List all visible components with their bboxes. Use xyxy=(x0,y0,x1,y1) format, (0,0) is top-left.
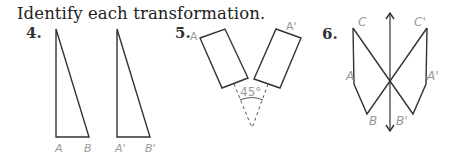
figures-canvas: A B A' B' A A' 45° C C' A A' B B' xyxy=(0,0,450,166)
label-A: A xyxy=(345,69,354,83)
problem-6-figure xyxy=(353,13,427,131)
rectangle-image xyxy=(254,29,301,88)
problem-5-figure xyxy=(200,29,301,88)
label-B: B xyxy=(84,142,92,155)
label-B: B xyxy=(369,114,377,128)
problem-4-figure xyxy=(56,29,150,137)
label-C: C xyxy=(358,15,367,29)
angle-label: 45° xyxy=(240,85,261,99)
label-B-prime: B' xyxy=(145,142,156,155)
label-A-prime: A' xyxy=(426,69,439,83)
triangle-original xyxy=(56,29,89,137)
label-A: A xyxy=(190,30,198,43)
label-A-prime: A' xyxy=(114,142,126,155)
rectangle-original xyxy=(200,29,248,88)
label-A-prime: A' xyxy=(286,20,297,33)
label-A: A xyxy=(54,142,63,155)
label-C-prime: C' xyxy=(414,15,426,29)
label-B-prime: B' xyxy=(396,114,408,128)
triangle-image xyxy=(117,29,150,137)
